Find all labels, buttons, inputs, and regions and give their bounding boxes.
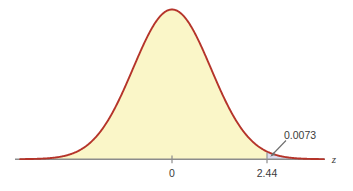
distribution-chart: 0 2.44 z 0.0073 <box>0 0 353 191</box>
x-axis-label-z: z <box>331 153 337 165</box>
normal-distribution-figure: 0 2.44 z 0.0073 <box>0 0 353 191</box>
x-tick-label-2-44: 2.44 <box>257 167 278 179</box>
body-area-fill <box>20 10 324 160</box>
x-tick-label-zero: 0 <box>169 167 175 179</box>
tail-probability-label: 0.0073 <box>284 129 316 141</box>
